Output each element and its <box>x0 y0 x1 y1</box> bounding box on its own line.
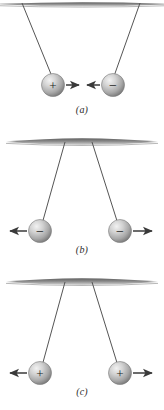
string-right <box>92 282 118 366</box>
sphere-left-positive: + <box>29 362 52 385</box>
string-left <box>42 142 65 224</box>
charge-sign-negative: − <box>116 224 124 239</box>
charge-sign-positive: + <box>36 366 43 381</box>
sphere-left-positive: + <box>42 74 65 97</box>
charge-sign-positive: + <box>49 78 56 93</box>
sphere-right-negative: − <box>109 220 132 243</box>
charge-sign-negative: − <box>109 78 117 93</box>
panel-label-a: (a) <box>0 104 164 115</box>
ceiling-bar <box>6 138 158 145</box>
string-left <box>42 282 65 366</box>
ceiling-bar <box>6 278 158 285</box>
charged-spheres-figure: + − (a) <box>0 0 164 410</box>
string-right <box>113 3 140 79</box>
sphere-right-positive: + <box>109 362 132 385</box>
string-right <box>92 142 118 224</box>
panel-label-b: (b) <box>0 244 164 255</box>
charge-sign-positive: + <box>116 366 123 381</box>
charge-sign-negative: − <box>36 224 44 239</box>
sphere-right-negative: − <box>102 74 125 97</box>
panel-label-c: (c) <box>0 386 164 397</box>
string-left <box>22 3 53 79</box>
sphere-left-negative: − <box>29 220 52 243</box>
